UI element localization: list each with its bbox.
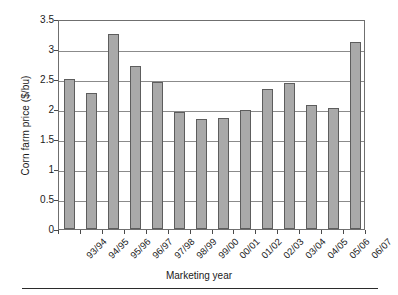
gridline xyxy=(59,111,364,112)
y-axis-tick-label: 3 xyxy=(0,44,54,55)
bar xyxy=(108,34,119,229)
plot-area xyxy=(58,20,365,230)
x-axis-tick-label: 95/96 xyxy=(128,236,153,261)
x-axis-tick-mark xyxy=(58,230,59,234)
x-axis-tick-label: 03/04 xyxy=(303,236,328,261)
y-axis-tick-label: 1.5 xyxy=(0,134,54,145)
x-axis-tick-mark xyxy=(321,230,322,234)
x-axis-tick-mark xyxy=(277,230,278,234)
bar xyxy=(328,108,339,229)
bar xyxy=(306,105,317,229)
bar xyxy=(86,93,97,229)
x-axis-tick-mark xyxy=(146,230,147,234)
bar xyxy=(284,83,295,229)
bar xyxy=(350,42,361,229)
gridline xyxy=(59,171,364,172)
x-axis-tick-label: 04/05 xyxy=(325,236,350,261)
x-axis-tick-label: 93/94 xyxy=(84,236,109,261)
x-axis-tick-mark xyxy=(255,230,256,234)
x-axis-tick-label: 00/01 xyxy=(237,236,262,261)
x-axis-tick-label: 06/07 xyxy=(369,236,394,261)
y-axis-tick-label: 0 xyxy=(0,224,54,235)
x-axis-tick-mark xyxy=(233,230,234,234)
bar xyxy=(218,118,229,229)
bar xyxy=(262,89,273,229)
bar xyxy=(174,112,185,229)
x-axis-tick-mark xyxy=(80,230,81,234)
x-axis-tick-mark xyxy=(102,230,103,234)
y-axis-tick-label: 2.5 xyxy=(0,74,54,85)
x-axis-tick-mark xyxy=(212,230,213,234)
x-axis-tick-label: 02/03 xyxy=(281,236,306,261)
x-axis-tick-label: 99/00 xyxy=(215,236,240,261)
bar xyxy=(196,119,207,229)
footer-rule xyxy=(22,288,378,289)
gridline xyxy=(59,201,364,202)
x-axis-tick-label: 98/99 xyxy=(194,236,219,261)
x-axis-tick-label: 96/97 xyxy=(150,236,175,261)
y-axis-tick-label: 2 xyxy=(0,104,54,115)
y-axis-tick-label: 0.5 xyxy=(0,194,54,205)
bar xyxy=(240,110,251,229)
y-axis-tick-label: 3.5 xyxy=(0,14,54,25)
bar xyxy=(130,66,141,229)
x-axis-tick-label: 05/06 xyxy=(347,236,372,261)
x-axis-title: Marketing year xyxy=(0,270,398,281)
x-axis-tick-mark xyxy=(343,230,344,234)
bar xyxy=(152,82,163,229)
gridline xyxy=(59,51,364,52)
x-axis-tick-mark xyxy=(124,230,125,234)
x-axis-tick-mark xyxy=(168,230,169,234)
x-axis-tick-mark xyxy=(190,230,191,234)
chart-figure: Corn farm price ($/bu) 00.511.522.533.5 … xyxy=(0,0,398,295)
gridline xyxy=(59,81,364,82)
x-axis-tick-label: 97/98 xyxy=(172,236,197,261)
y-axis-tick-label: 1 xyxy=(0,164,54,175)
x-axis-tick-label: 94/95 xyxy=(106,236,131,261)
x-axis-tick-label: 01/02 xyxy=(259,236,284,261)
gridline xyxy=(59,141,364,142)
bar xyxy=(64,79,75,229)
x-axis-tick-mark xyxy=(299,230,300,234)
x-axis-tick-mark xyxy=(365,230,366,234)
